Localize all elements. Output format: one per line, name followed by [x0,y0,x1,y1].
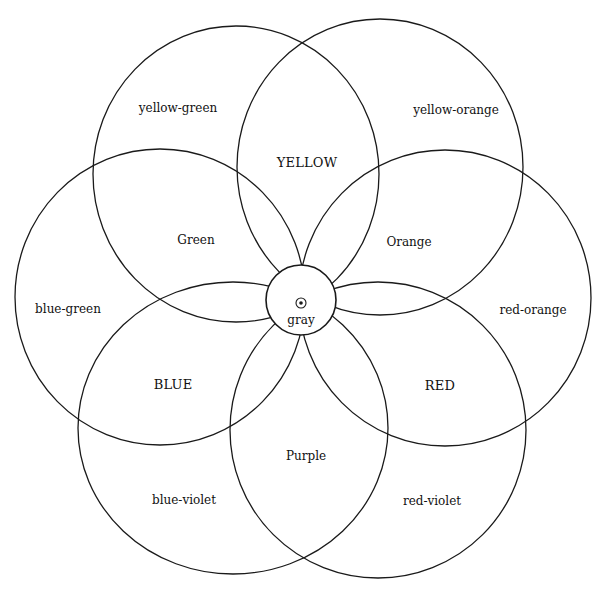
blue-green-circle [15,149,305,445]
label-yellow: YELLOW [277,155,338,170]
label-red: RED [425,378,455,393]
label-purple: Purple [286,449,326,463]
label-yellow-orange: yellow-orange [413,103,499,117]
label-gray: gray [287,313,314,327]
color-wheel-diagram [0,0,605,595]
label-green: Green [177,233,214,247]
label-blue: BLUE [154,377,193,392]
yellow-green-circle [93,26,379,322]
label-yellow-green: yellow-green [139,101,217,115]
label-blue-violet: blue-violet [152,493,216,507]
label-red-violet: red-violet [403,494,461,508]
blue-violet-circle [78,282,388,574]
label-blue-green: blue-green [35,302,101,316]
label-red-orange: red-orange [499,303,566,317]
label-orange: Orange [386,235,431,249]
